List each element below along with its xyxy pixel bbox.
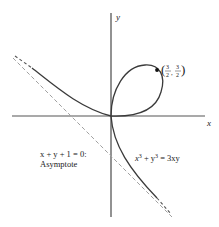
svg-text:(: ( — [161, 62, 165, 77]
y-axis-label: y — [115, 12, 120, 22]
curve-equation-label: x3 + y3 = 3xy — [134, 153, 181, 164]
svg-text:,: , — [171, 69, 173, 77]
folium-diagram: ( 3 2 , 3 2 ) y x x + y + 1 = 0: Asympto… — [0, 0, 219, 227]
asymptote-line-dark-lower — [157, 198, 171, 214]
svg-text:2: 2 — [166, 72, 169, 78]
asymptote-line — [13, 58, 172, 217]
svg-text:2: 2 — [176, 72, 179, 78]
svg-text:3: 3 — [166, 64, 169, 70]
asymptote-label-text: Asymptote — [40, 159, 78, 169]
svg-text:3: 3 — [176, 64, 179, 70]
point-marker — [155, 68, 159, 72]
point-label: ( 3 2 , 3 2 ) — [161, 62, 185, 78]
folium-loop — [111, 65, 163, 116]
folium-left-branch — [32, 68, 111, 116]
x-axis-label: x — [206, 118, 211, 128]
asymptote-label-equation: x + y + 1 = 0: — [40, 149, 87, 159]
asymptote-line-dark — [15, 56, 32, 68]
svg-text:): ) — [181, 62, 185, 77]
